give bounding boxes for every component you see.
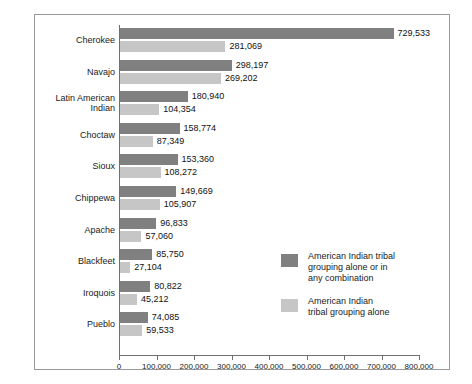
bar-value-combination: 729,533 [398,28,431,39]
legend-label: American Indian tribalgrouping alone or … [308,251,441,284]
category-label: Cherokee [76,35,115,45]
bar-value-alone: 57,060 [145,231,173,242]
bar-value-alone: 27,104 [134,262,162,273]
x-axis-tick-label: 400,000 [255,362,284,371]
x-axis-tick [232,355,233,360]
chart-legend: American Indian tribalgrouping alone or … [281,251,441,338]
x-axis-tick-label: 0 [117,362,121,371]
bar-combination [120,28,394,39]
bar-value-combination: 298,197 [236,60,269,71]
legend-entry: American Indian tribalgrouping alone or … [281,251,441,284]
x-axis-tick-label: 800,000 [405,362,434,371]
x-axis-tick [119,355,120,360]
bar-value-alone: 87,349 [157,136,185,147]
bar-value-alone: 104,354 [163,104,196,115]
bar-combination [120,123,180,134]
bar-combination [120,249,152,260]
category-label: Navajo [87,67,115,77]
bar-value-alone: 269,202 [225,73,258,84]
category-label: Pueblo [87,319,115,329]
x-axis-tick-label: 300,000 [217,362,246,371]
bar-combination [120,218,156,229]
bar-value-alone: 105,907 [164,199,197,210]
category-label: Blackfeet [78,256,115,266]
bar-value-combination: 158,774 [184,123,217,134]
bar-alone [120,262,130,273]
bar-value-combination: 74,085 [152,312,180,323]
x-axis-tick [269,355,270,360]
bar-value-combination: 180,940 [192,91,225,102]
category-label: Latin AmericanIndian [55,93,115,113]
bar-group: Chippewa149,669105,907 [120,186,420,218]
bar-alone [120,41,225,52]
x-axis-tick-label: 200,000 [180,362,209,371]
legend-swatch [281,254,298,267]
bar-value-combination: 96,833 [160,218,188,229]
bar-value-alone: 45,212 [141,294,169,305]
bar-value-alone: 108,272 [165,167,198,178]
chart-figure: Cherokee729,533281,069Navajo298,197269,2… [0,0,472,384]
bar-combination [120,186,176,197]
bar-value-alone: 281,069 [229,41,262,52]
x-axis-tick [382,355,383,360]
bar-combination [120,154,178,165]
bar-alone [120,199,160,210]
bar-group: Cherokee729,533281,069 [120,28,420,60]
bar-group: Sioux153,360108,272 [120,154,420,186]
bar-alone [120,104,159,115]
bar-combination [120,281,150,292]
bar-alone [120,73,221,84]
bar-alone [120,231,141,242]
x-axis-tick [194,355,195,360]
bar-group: Latin AmericanIndian180,940104,354 [120,91,420,123]
category-label: Choctaw [80,130,115,140]
x-axis-tick-label: 100,000 [142,362,171,371]
x-axis-tick-label: 500,000 [292,362,321,371]
bar-group: Choctaw158,77487,349 [120,123,420,155]
category-label: Iroquois [83,288,115,298]
bar-alone [120,294,137,305]
x-axis-tick-label: 600,000 [330,362,359,371]
x-axis-tick [157,355,158,360]
bar-alone [120,325,142,336]
bar-combination [120,312,148,323]
bar-alone [120,167,161,178]
category-label: Sioux [92,161,115,171]
x-axis-tick [419,355,420,360]
chart-frame: Cherokee729,533281,069Navajo298,197269,2… [34,14,450,370]
bar-value-alone: 59,533 [146,325,174,336]
bar-value-combination: 80,822 [154,281,182,292]
bar-combination [120,60,232,71]
legend-label: American Indiantribal grouping alone [308,296,441,318]
bar-combination [120,91,188,102]
category-label: Apache [84,225,115,235]
x-axis-tick [344,355,345,360]
bar-alone [120,136,153,147]
x-axis-tick [307,355,308,360]
bar-group: Navajo298,197269,202 [120,60,420,92]
bar-value-combination: 149,669 [180,186,213,197]
bar-group: Apache96,83357,060 [120,218,420,250]
legend-swatch [281,299,298,312]
legend-entry: American Indiantribal grouping alone [281,296,441,326]
bar-value-combination: 153,360 [182,154,215,165]
category-label: Chippewa [75,193,115,203]
bar-value-combination: 85,750 [156,249,184,260]
x-axis-tick-label: 700,000 [367,362,396,371]
